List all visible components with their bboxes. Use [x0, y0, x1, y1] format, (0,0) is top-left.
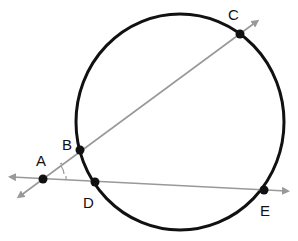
- circle: [76, 14, 284, 230]
- secant-abc-line: [20, 22, 256, 196]
- geometry-diagram: A B C D E: [0, 0, 298, 241]
- label-e: E: [260, 202, 270, 219]
- secant-ade-line: [12, 177, 286, 191]
- point-a: [39, 175, 48, 184]
- angle-mark-icon: [61, 166, 64, 174]
- angle-tick-icon: [60, 163, 62, 164]
- point-b: [76, 146, 85, 155]
- point-d: [91, 178, 100, 187]
- point-c: [236, 30, 245, 39]
- label-b: B: [62, 136, 72, 153]
- point-e: [260, 186, 269, 195]
- label-c: C: [228, 6, 239, 23]
- label-a: A: [36, 152, 46, 169]
- label-d: D: [83, 194, 94, 211]
